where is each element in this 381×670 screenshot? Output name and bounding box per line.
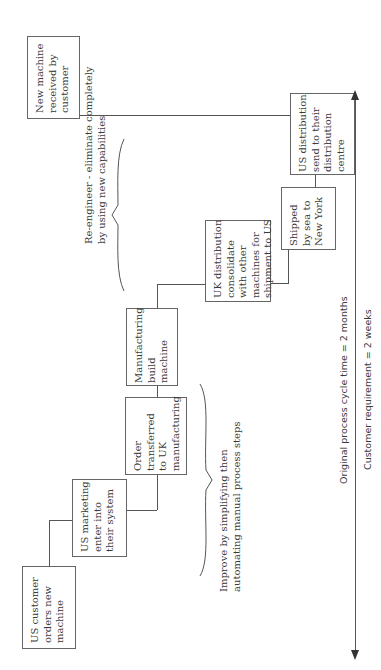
connector-4-5-h: [157, 284, 205, 285]
step-label: US marketing enter into their system: [79, 481, 117, 552]
connector-2-3: [157, 474, 158, 510]
arrow-down-icon: [351, 650, 359, 660]
reengineer-annotation: Re-engineer - eliminate completely by us…: [83, 67, 108, 245]
original-cycle-time-label: Original process cycle time = 2 months: [338, 296, 351, 484]
step-label: Manufacturing build machine: [133, 307, 171, 383]
step-label: New machine received by customer: [34, 44, 72, 113]
connector-2-3-h: [126, 510, 157, 511]
step-manufacturing-build: Manufacturing build machine: [126, 308, 178, 386]
step-us-marketing-enter: US marketing enter into their system: [72, 479, 127, 557]
step-us-customer-orders: US customer orders new machine: [22, 566, 76, 649]
step-us-distribution: US distribution send to their distributi…: [290, 93, 355, 175]
step-label: UK distribution consolidate with other m…: [212, 219, 275, 298]
step-order-transferred: Order transferred to UK manufacturing: [125, 397, 187, 475]
connector-7-8: [80, 115, 292, 116]
step-label: US customer orders new machine: [29, 577, 67, 643]
connector-4-5: [157, 284, 158, 308]
step-label: Order transferred to UK manufacturing: [132, 396, 182, 471]
arrow-up-icon: [351, 90, 359, 100]
customer-requirement-label: Customer requirement = 2 weeks: [362, 309, 375, 470]
step-uk-distribution: UK distribution consolidate with other m…: [205, 220, 271, 302]
timeline-axis: [355, 100, 356, 655]
step-shipped-by-sea: Shipped by sea to New York: [281, 187, 336, 250]
connector-1-2-h: [49, 520, 73, 521]
step-new-machine-received: New machine received by customer: [27, 36, 80, 119]
step-label: US distribution send to their distributi…: [297, 94, 347, 172]
connector-1-2: [49, 520, 50, 566]
step-label: Shipped by sea to New York: [288, 197, 326, 246]
improve-brace: [196, 380, 216, 580]
connector-5-6: [288, 248, 289, 284]
improve-annotation: Improve by simplifying then automating m…: [218, 421, 243, 592]
reengineer-brace: [106, 135, 126, 295]
